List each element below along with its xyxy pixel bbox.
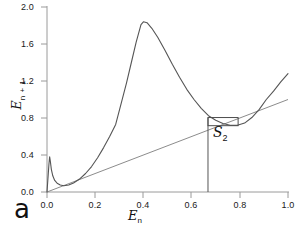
xtick-label-0.8: 0.8 (227, 200, 253, 210)
identity-line (47, 100, 288, 193)
xtick-label-0.2: 0.2 (82, 200, 108, 210)
xtick-label-0.0: 0.0 (34, 200, 60, 210)
chart-canvas (0, 0, 296, 231)
x-axis-ticks (47, 192, 288, 198)
y-axis-title-subscript: n + 1 (18, 80, 27, 101)
ytick-label-0.4: 0.4 (8, 150, 34, 160)
s2-symbol: S (213, 124, 223, 140)
figure-panel-a: 2.0 1.6 1.2 0.8 0.4 0.0 0.0 0.2 0.4 0.6 … (0, 0, 296, 231)
return-map-curve (47, 22, 288, 192)
data-series-group (47, 22, 288, 192)
panel-label-a: a (14, 196, 30, 222)
s2-annotation-label: S2 (213, 124, 228, 143)
axes (41, 6, 289, 198)
y-axis-title-symbol: E (9, 100, 24, 110)
xtick-label-0.6: 0.6 (178, 200, 204, 210)
x-axis-title-subscript: n (138, 216, 143, 225)
xtick-label-1.0: 1.0 (275, 200, 296, 210)
y-axis-ticks (41, 7, 47, 192)
x-axis-title-symbol: E (128, 208, 138, 223)
ytick-label-1.6: 1.6 (8, 39, 34, 49)
y-axis-title: En + 1 (9, 65, 26, 125)
ytick-label-2.0: 2.0 (8, 2, 34, 12)
x-axis-title: En (128, 208, 142, 225)
s2-subscript: 2 (223, 133, 229, 143)
